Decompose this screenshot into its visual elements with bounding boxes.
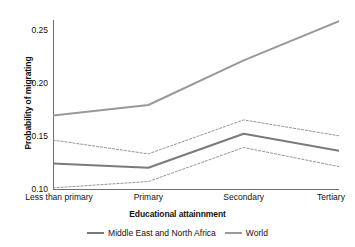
y-tick-label-3: 0.25 [20,25,48,35]
x-axis-tick-labels: Less than primaryPrimarySecondaryTertiar… [0,192,355,206]
x-tick-label-0: Less than primary [25,192,93,202]
y-tick-label-1: 0.15 [20,131,48,141]
legend-entry-0[interactable]: Middle East and North Africa [87,228,216,238]
legend-swatch-1 [225,232,242,234]
series-line-1 [53,21,339,116]
series-line-3 [53,148,339,188]
chart-figure: Probability of migrating 0.100.150.200.2… [0,0,355,247]
legend-entry-1[interactable]: World [225,228,268,238]
plot-svg [53,20,339,190]
legend-label-0: Middle East and North Africa [108,228,216,238]
series-line-0 [53,134,339,168]
chart-legend: Middle East and North AfricaWorld [0,228,355,238]
x-axis-title: Educational attainnment [0,209,355,219]
series-line-2 [53,120,339,154]
x-tick-label-1: Primary [134,192,163,202]
legend-label-1: World [246,228,268,238]
y-tick-label-2: 0.20 [20,78,48,88]
plot-area [53,20,339,190]
legend-swatch-0 [87,232,104,234]
x-tick-label-2: Secondary [223,192,264,202]
x-tick-label-3: Tertiary [317,192,345,202]
axis-spine [54,20,340,190]
